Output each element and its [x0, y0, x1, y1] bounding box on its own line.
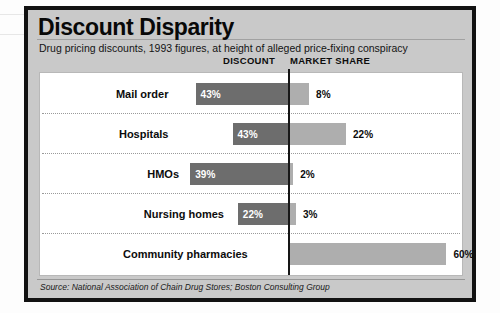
column-header-market-share: MARKET SHARE — [290, 55, 370, 66]
market-share-value-label: 2% — [300, 169, 314, 180]
chart-rows: Mail order43%8%Hospitals43%22%HMOs39%2%N… — [40, 73, 462, 275]
chart-plate: Discount Disparity Drug pricing discount… — [28, 10, 472, 298]
title-rule — [37, 39, 465, 40]
bar-group: Nursing homes22%3% — [230, 203, 296, 225]
chart-row: Community pharmacies13%60% — [40, 234, 462, 274]
market-share-value-label: 3% — [303, 209, 317, 220]
chart-row: Mail order43%8% — [40, 74, 462, 114]
bar-group: HMOs39%2% — [185, 163, 293, 185]
scan-artifact — [0, 34, 24, 35]
row-category-label: Mail order — [116, 88, 175, 100]
chart-row: HMOs39%2% — [40, 154, 462, 194]
chart-row: Nursing homes22%3% — [40, 194, 462, 234]
market-share-bar — [288, 243, 446, 265]
column-header-row: DISCOUNT MARKET SHARE — [28, 55, 472, 71]
market-share-bar — [288, 123, 346, 145]
bar-group: Community pharmacies13%60% — [254, 243, 447, 265]
row-category-label: Nursing homes — [144, 208, 230, 220]
discount-value-label: 43% — [201, 89, 221, 100]
page-title: Discount Disparity — [38, 14, 234, 41]
chart-row: Hospitals43%22% — [40, 114, 462, 154]
column-header-discount: DISCOUNT — [223, 55, 275, 66]
row-category-label: Hospitals — [119, 128, 175, 140]
row-category-label: Community pharmacies — [123, 248, 254, 260]
market-share-value-label: 22% — [353, 129, 373, 140]
discount-value-label: 43% — [238, 129, 258, 140]
chart-plot-panel: Mail order43%8%Hospitals43%22%HMOs39%2%N… — [39, 72, 463, 276]
source-rule — [37, 279, 465, 280]
market-share-bar-host: 22% — [288, 123, 346, 145]
market-share-bar — [288, 83, 309, 105]
chart-plate-frame: Discount Disparity Drug pricing discount… — [24, 6, 476, 302]
scan-artifact — [0, 14, 26, 15]
bar-group: Hospitals43%22% — [174, 123, 346, 145]
center-axis-line — [288, 69, 290, 275]
market-share-bar-host: 60% — [288, 243, 446, 265]
chart-figure: Discount Disparity Drug pricing discount… — [0, 0, 500, 313]
discount-bar: 39% — [190, 163, 293, 185]
discount-value-label: 39% — [195, 169, 215, 180]
market-share-value-label: 60% — [453, 249, 473, 260]
row-category-label: HMOs — [147, 168, 185, 180]
chart-subtitle: Drug pricing discounts, 1993 figures, at… — [39, 42, 408, 54]
market-share-value-label: 8% — [316, 89, 330, 100]
source-note: Source: National Association of Chain Dr… — [40, 282, 330, 292]
discount-value-label: 22% — [243, 209, 263, 220]
market-share-bar-host: 8% — [288, 83, 309, 105]
